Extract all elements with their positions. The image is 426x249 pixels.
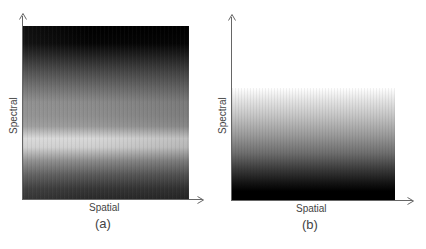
y-axis-b [231, 17, 232, 201]
caption-b: (b) [302, 217, 318, 232]
panel-b: Spectral Spatial (b) [0, 0, 213, 249]
spectral-image-b [232, 88, 395, 200]
x-axis-label-b: Spatial [296, 203, 327, 214]
y-axis-label-b: Spectral [217, 97, 228, 134]
arrow-up-icon [228, 14, 236, 21]
x-axis-b [231, 200, 412, 201]
arrow-right-icon [407, 197, 414, 205]
